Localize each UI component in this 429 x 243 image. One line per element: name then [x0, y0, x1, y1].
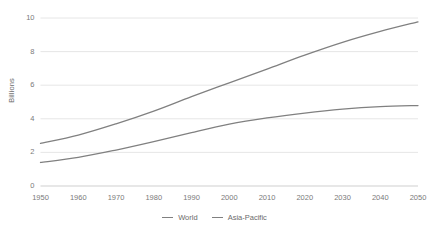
legend-item[interactable]: World	[162, 214, 197, 222]
legend-line-icon	[162, 217, 173, 218]
legend-item[interactable]: Asia-Pacific	[212, 214, 267, 222]
plot-area	[0, 0, 429, 243]
legend-label: World	[178, 214, 197, 222]
series-lines	[41, 22, 419, 163]
line-chart: Billions 0246810 19501960197019801990200…	[0, 0, 429, 243]
legend-label: Asia-Pacific	[228, 214, 267, 222]
series-line	[41, 106, 419, 163]
chart-legend: WorldAsia-Pacific	[0, 214, 429, 222]
legend-line-icon	[212, 217, 223, 218]
series-line	[41, 22, 419, 143]
gridlines	[41, 18, 419, 186]
